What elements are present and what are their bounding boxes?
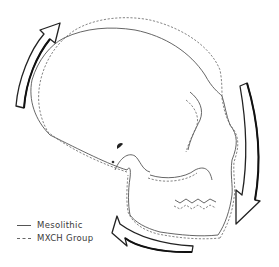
legend: Mesolithic MXCH Group [17,219,93,245]
mxch-outline [39,18,238,239]
legend-item-mxch: MXCH Group [17,232,93,245]
dashed-line-swatch [17,238,31,239]
legend-label: Mesolithic [37,219,83,232]
arrow-bottom [112,216,193,252]
legend-item-mesolithic: Mesolithic [17,219,93,232]
arrow-right [236,83,260,224]
solid-line-swatch [17,225,31,226]
legend-label: MXCH Group [37,232,93,245]
mesolithic-outline [31,28,236,236]
